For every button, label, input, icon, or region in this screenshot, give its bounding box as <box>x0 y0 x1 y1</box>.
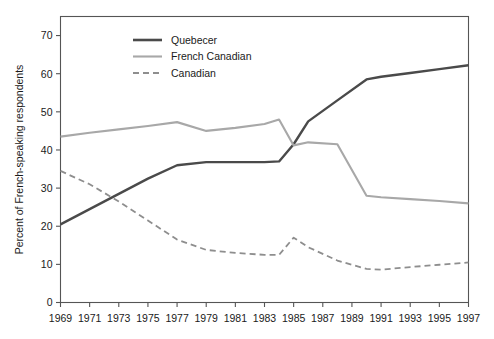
x-tick-label: 1995 <box>428 312 452 324</box>
y-axis-title: Percent of French-speaking respondents <box>13 65 25 255</box>
plot-border <box>61 17 469 303</box>
x-tick-label: 1989 <box>340 312 364 324</box>
x-tick-label: 1973 <box>107 312 131 324</box>
legend-label-canadian: Canadian <box>171 67 216 79</box>
x-axis-ticks <box>61 303 469 308</box>
x-axis-tick-labels: 1969197119731975197719791981198319851987… <box>49 312 481 324</box>
x-tick-label: 1997 <box>457 312 481 324</box>
x-tick-label: 1981 <box>224 312 248 324</box>
x-tick-label: 1979 <box>195 312 219 324</box>
x-tick-label: 1969 <box>49 312 73 324</box>
legend-label-french-canadian: French Canadian <box>171 50 252 62</box>
x-tick-label: 1993 <box>399 312 423 324</box>
legend-label-quebecer: Quebecer <box>171 34 218 46</box>
plot-frame <box>61 17 469 303</box>
chart-container: 1969197119731975197719791981198319851987… <box>0 0 494 339</box>
line-chart: 1969197119731975197719791981198319851987… <box>0 0 494 339</box>
y-tick-label: 50 <box>41 106 53 118</box>
y-tick-label: 30 <box>41 182 53 194</box>
series-line-canadian <box>61 171 469 270</box>
x-tick-label: 1987 <box>311 312 335 324</box>
y-axis-tick-labels: 010203040506070 <box>41 29 53 308</box>
y-tick-label: 10 <box>41 258 53 270</box>
series-line-quebecer <box>61 65 469 224</box>
x-tick-label: 1985 <box>282 312 306 324</box>
y-tick-label: 70 <box>41 29 53 41</box>
y-tick-label: 0 <box>47 296 53 308</box>
y-tick-label: 40 <box>41 144 53 156</box>
x-tick-label: 1991 <box>369 312 393 324</box>
x-tick-label: 1971 <box>78 312 102 324</box>
x-tick-label: 1977 <box>165 312 189 324</box>
data-series-group <box>61 65 469 269</box>
y-tick-label: 20 <box>41 220 53 232</box>
chart-legend: QuebecerFrench CanadianCanadian <box>133 34 252 79</box>
y-tick-label: 60 <box>41 68 53 80</box>
x-tick-label: 1975 <box>136 312 160 324</box>
y-axis-ticks <box>56 36 61 303</box>
x-tick-label: 1983 <box>253 312 277 324</box>
y-axis-title-text: Percent of French-speaking respondents <box>13 65 25 255</box>
